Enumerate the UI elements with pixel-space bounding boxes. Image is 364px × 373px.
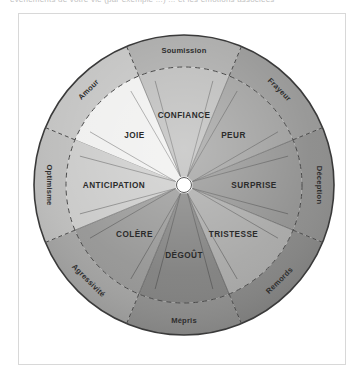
center-hub — [177, 178, 192, 193]
primary-emotion-label: JOIE — [124, 131, 145, 140]
dyad-label: Déception — [315, 166, 324, 205]
dyad-label: Mépris — [171, 316, 197, 325]
emotion-wheel-figure: AmourSoumissionFrayeurDéceptionRemordsMé… — [18, 13, 346, 365]
primary-emotion-label: ANTICIPATION — [83, 181, 145, 190]
primary-emotion-label: SURPRISE — [231, 181, 277, 190]
primary-emotion-label: COLÈRE — [116, 229, 153, 239]
emotion-wheel-svg: AmourSoumissionFrayeurDéceptionRemordsMé… — [18, 13, 346, 365]
caption-fragment: événements de votre vie (par exemple ...… — [10, 0, 354, 5]
primary-emotion-label: TRISTESSE — [209, 230, 259, 239]
dyad-label: Optimisme — [45, 164, 54, 205]
primary-emotion-label: CONFIANCE — [158, 111, 211, 120]
primary-emotion-label: DÉGOÛT — [165, 249, 203, 260]
dyad-label: Soumission — [161, 46, 206, 55]
primary-emotion-label: PEUR — [221, 131, 246, 140]
